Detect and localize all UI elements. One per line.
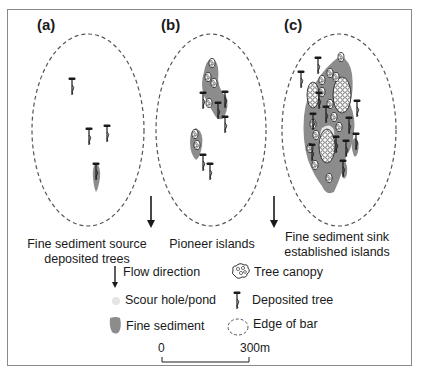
panel-label-b: (b) (161, 16, 180, 33)
scour-hole-icon (112, 297, 120, 305)
legend-label-scour-hole: Scour hole/pond (125, 293, 216, 307)
bar-edge-a (32, 34, 144, 226)
legend-label-flow-direction: Flow direction (123, 265, 200, 279)
panel-a-diagram (32, 34, 144, 226)
panel-c-diagram (282, 34, 396, 226)
legend-label-deposited-tree: Deposited tree (252, 293, 333, 307)
tree-canopy-icon (232, 264, 249, 279)
legend-label-fine-sediment: Fine sediment (126, 319, 205, 333)
scale-bar (162, 357, 249, 362)
flow-arrow-1 (147, 196, 155, 228)
bar-edge-icon (228, 319, 248, 335)
flow-arrow-2 (270, 196, 278, 228)
scale-label-end: 300m (240, 341, 270, 355)
panel-label-c: (c) (284, 16, 302, 33)
caption-a: Fine sediment source deposited trees (22, 237, 152, 267)
caption-c-line1: Fine sediment sink (280, 230, 394, 245)
caption-c: Fine sediment sink established islands (280, 230, 394, 260)
legend-label-tree-canopy: Tree canopy (254, 265, 323, 279)
figure-canvas (0, 0, 425, 385)
flow-arrow-icon (112, 266, 118, 288)
legend-label-edge-of-bar: Edge of bar (253, 317, 318, 331)
panel-label-a: (a) (37, 16, 55, 33)
deposited-tree-icon (234, 292, 241, 310)
caption-b-line1: Pioneer islands (165, 237, 259, 252)
fine-sediment-icon (110, 317, 121, 334)
panel-b-diagram (156, 34, 266, 226)
scale-label-start: 0 (158, 341, 165, 355)
caption-a-line1: Fine sediment source (22, 237, 152, 252)
caption-c-line2: established islands (280, 245, 394, 260)
caption-b: Pioneer islands (165, 237, 259, 252)
